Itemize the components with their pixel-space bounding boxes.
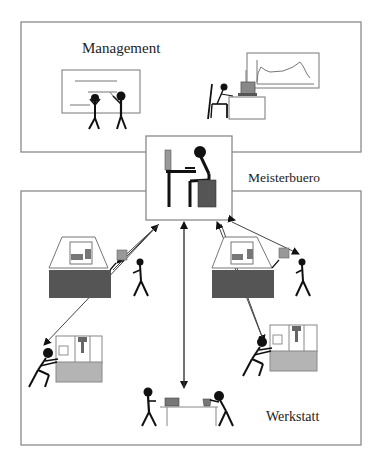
workbench-team-icon <box>142 388 233 427</box>
cnc-machine-left-icon <box>29 336 102 387</box>
werkstatt-label: Werkstatt <box>266 409 319 425</box>
meisterbuero-box <box>146 136 232 220</box>
whiteboard-meeting-icon <box>62 70 140 129</box>
machine-tool-left-icon <box>49 237 148 298</box>
factory-communication-diagram <box>0 0 381 469</box>
management-label: Management <box>82 40 160 57</box>
cnc-machine-right-icon <box>243 325 317 376</box>
machine-tool-right-icon <box>212 237 310 298</box>
analysis-workstation-icon <box>208 53 319 119</box>
meisterbuero-label: Meisterbuero <box>248 170 320 186</box>
